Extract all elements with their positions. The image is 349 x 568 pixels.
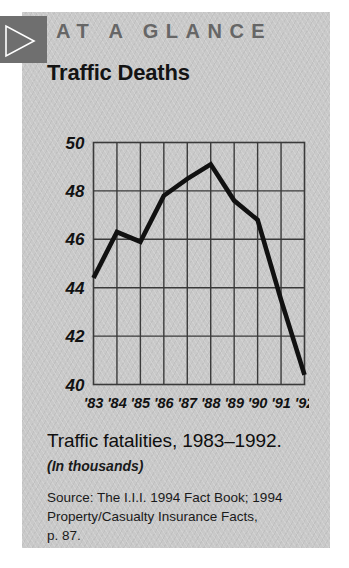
line-chart: 404244464850 '83'84'85'86'87'88'89'90'91… (47, 116, 309, 421)
caption-subtitle: (In thousands) (47, 458, 143, 474)
x-tick-label: '92 (295, 395, 309, 411)
y-tick-label: 46 (65, 230, 85, 249)
header-band: AT A GLANCE (22, 12, 330, 56)
x-tick-label: '83 (84, 395, 104, 411)
x-axis-tick-labels: '83'84'85'86'87'88'89'90'91'92 (84, 395, 309, 411)
horizontal-gridlines (94, 191, 305, 336)
plot-frame (94, 143, 305, 385)
data-series-line (94, 164, 305, 375)
x-tick-label: '90 (248, 395, 268, 411)
y-axis-tick-labels: 404244464850 (65, 134, 85, 395)
x-tick-label: '85 (131, 395, 152, 411)
x-tick-label: '86 (154, 395, 175, 411)
play-triangle-icon (0, 16, 47, 63)
source-note: Source: The I.I.I. 1994 Fact Book; 1994 … (47, 488, 317, 545)
source-line-3: p. 87. (47, 526, 317, 545)
source-line-1: Source: The I.I.I. 1994 Fact Book; 1994 (47, 488, 317, 507)
x-tick-label: '84 (107, 395, 127, 411)
vertical-gridlines (117, 143, 281, 385)
source-line-2: Property/Casualty Insurance Facts, (47, 507, 317, 526)
x-tick-label: '87 (177, 395, 198, 411)
y-tick-label: 40 (65, 376, 85, 395)
at-a-glance-card: AT A GLANCE Traffic Deaths 404244464850 … (22, 12, 330, 548)
chart-title: Traffic Deaths (47, 60, 190, 86)
y-tick-label: 48 (65, 182, 85, 201)
x-tick-label: '91 (271, 395, 291, 411)
y-tick-label: 50 (66, 134, 85, 153)
x-tick-label: '89 (224, 395, 244, 411)
y-tick-label: 44 (65, 279, 85, 298)
page-title: AT A GLANCE (56, 20, 272, 43)
chart-canvas: 404244464850 '83'84'85'86'87'88'89'90'91… (47, 116, 309, 421)
caption-main: Traffic fatalities, 1983–1992. (47, 430, 327, 452)
x-tick-label: '88 (201, 395, 222, 411)
y-tick-label: 42 (65, 327, 85, 346)
